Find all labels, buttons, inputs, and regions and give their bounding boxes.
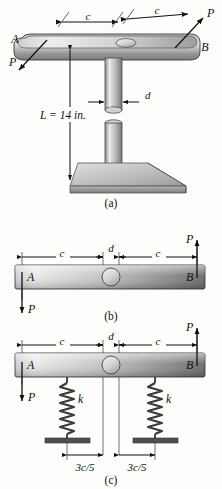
plate-front-edge [70,186,186,193]
spring-base-plate [133,438,178,443]
bar-3d [14,34,200,60]
label-B-b: B [186,270,194,284]
dimension-label-c-right: c [155,4,160,16]
length-label-L: L = 14 in. [39,109,86,121]
dimension-c-right-a: c [123,4,188,24]
post-cylinder-upper [105,58,122,110]
label-A-a: A [10,32,19,46]
dimension-label-c-right-c: c [156,335,161,347]
spring-left: k [45,377,90,443]
dimension-d-b: d [96,242,126,257]
caption-c: (c) [105,474,118,487]
post-upper [105,58,122,113]
mechanics-figure: c c A B P P [0,0,222,489]
dimension-label-c-left-c: c [60,335,65,347]
dimension-c-left-c: c [22,335,103,348]
dimension-d-c: d [96,330,126,345]
label-B-a: B [201,40,209,54]
length-label-text: L = 14 in. [39,109,86,121]
dimension-c-left-b: c [22,247,103,260]
dimension-3c5-right: 3c/5 [119,455,155,473]
dimension-label-3c5-right: 3c/5 [127,461,147,473]
spring-base-plate [45,438,90,443]
dimension-c-left-a: c [58,10,123,27]
part-b-group: c d c A B P P [15,232,205,323]
bar-flat-b [15,265,205,289]
bar-center-hole [116,39,136,48]
dimension-label-d-b: d [108,242,114,254]
force-label-P-left-c: P [27,390,36,404]
label-A-c: A [26,358,35,372]
force-label-P-left-b: P [27,302,36,316]
caption-a: (a) [105,197,118,210]
force-label-P-left-a: P [8,55,17,69]
tick-mark [58,12,69,27]
tick-mark [112,12,123,27]
dimension-label-3c5-left: 3c/5 [75,461,95,473]
force-label-P-right-c: P [185,320,194,334]
dimension-c-right-b: c [119,247,197,260]
spring-label-k-left: k [78,393,84,405]
spring-label-k-right: k [166,393,172,405]
dimension-label-d-c: d [108,330,114,342]
dimension-label-c-left: c [86,10,91,22]
dimension-label-c-left-b: c [60,247,65,259]
force-label-P-right-a: P [206,6,215,20]
spring-coil [60,383,74,434]
bar-flat-c [15,353,205,377]
part-c-group: c d c A B P P [15,320,205,487]
dimension-c-right-c: c [119,335,197,348]
spring-coil [148,383,162,434]
spring-right: k [133,377,178,443]
label-B-c: B [186,358,194,372]
caption-b: (b) [104,310,118,323]
force-label-P-right-b: P [185,232,194,246]
bar-center-hole-c [102,356,120,374]
bar-center-hole-b [102,268,120,286]
dimension-L: L = 14 in. [36,50,98,180]
plate-top-surface [70,163,186,186]
label-A-b: A [26,270,35,284]
dimension-label-d-a: d [145,89,151,101]
dimension-label-c-right-b: c [156,247,161,259]
base-plate [70,163,186,193]
post-bottom-ellipse [105,107,122,113]
part-a-group: c c A B P P [8,4,215,210]
tick-mark [123,9,134,24]
dimension-3c5-left: 3c/5 [67,455,103,473]
